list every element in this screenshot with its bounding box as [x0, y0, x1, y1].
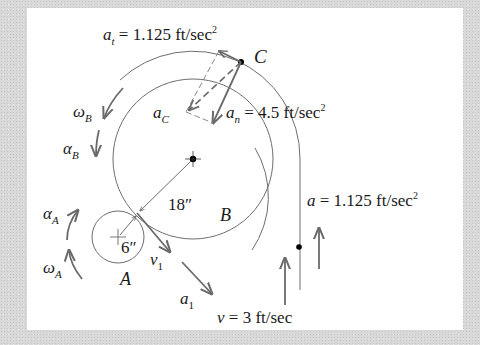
an-label: an = 4.5 ft/sec2	[226, 104, 325, 121]
ac-label: aC	[153, 104, 169, 121]
radius-b-label: 18″	[168, 196, 192, 213]
wheel-b-label: B	[220, 206, 231, 224]
at-arrow	[219, 51, 241, 62]
pulley-diagram	[0, 0, 480, 345]
omega-a-label: ωA	[43, 259, 62, 276]
radius-a-label: 6″	[121, 239, 137, 256]
inner-arc-right	[252, 148, 268, 250]
v-load-label: v = 3 ft/sec	[217, 309, 292, 326]
a1-label: a1	[180, 290, 194, 307]
outer-drum-arc	[120, 51, 300, 290]
v1-label: v1	[150, 251, 163, 268]
alpha-b-arrow	[96, 130, 99, 156]
alpha-a-label: αA	[43, 205, 59, 222]
omega-a-arrow	[69, 250, 82, 279]
omega-b-label: ωB	[73, 103, 92, 120]
omega-b-arrow	[104, 88, 123, 118]
radius-a-dimension	[120, 216, 136, 235]
a-load-label: a = 1.125 ft/sec2	[307, 192, 418, 209]
at-label: at = 1.125 ft/sec2	[103, 26, 217, 43]
alpha-b-label: αB	[63, 140, 79, 157]
wheel-a-label: A	[120, 270, 131, 288]
point-c-label: C	[254, 47, 267, 66]
load-point-dot	[296, 244, 302, 250]
alpha-a-arrow	[67, 210, 78, 240]
